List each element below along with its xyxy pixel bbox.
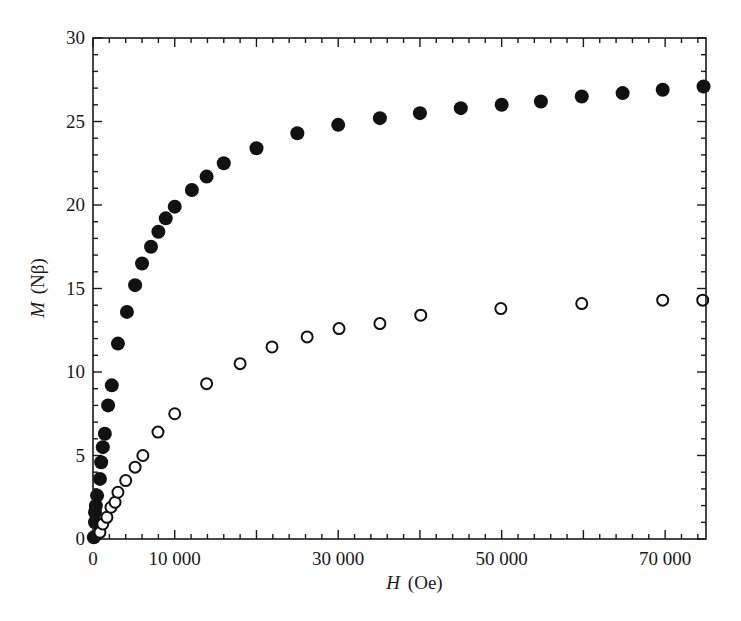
data-point bbox=[98, 427, 112, 441]
data-point bbox=[290, 126, 304, 140]
y-axis-variable: M bbox=[27, 301, 48, 319]
data-point bbox=[112, 487, 123, 498]
data-point bbox=[135, 256, 149, 270]
data-point bbox=[334, 323, 345, 334]
x-axis-variable: H bbox=[385, 572, 401, 593]
data-point bbox=[168, 200, 182, 214]
data-point bbox=[217, 156, 231, 170]
data-point bbox=[111, 337, 125, 351]
data-point bbox=[374, 318, 385, 329]
data-point bbox=[185, 183, 199, 197]
data-point bbox=[144, 240, 158, 254]
data-point bbox=[93, 472, 107, 486]
x-tick-label: 10 000 bbox=[149, 548, 201, 569]
data-point bbox=[413, 106, 427, 120]
data-point bbox=[266, 341, 277, 352]
data-point bbox=[576, 298, 587, 309]
x-axis-unit: (Oe) bbox=[408, 572, 443, 594]
data-point bbox=[101, 398, 115, 412]
data-point bbox=[105, 378, 119, 392]
y-tick-label: 10 bbox=[66, 361, 85, 382]
x-tick-label: 30 000 bbox=[312, 548, 364, 569]
data-point bbox=[656, 83, 670, 97]
data-point bbox=[235, 358, 246, 369]
data-point bbox=[415, 310, 426, 321]
data-point bbox=[128, 278, 142, 292]
data-point bbox=[152, 427, 163, 438]
data-point bbox=[495, 303, 506, 314]
y-axis-unit: (Nβ) bbox=[27, 258, 49, 294]
data-point bbox=[495, 98, 509, 112]
y-axis-label: M (Nβ) bbox=[27, 258, 49, 319]
data-point bbox=[331, 118, 345, 132]
data-point bbox=[454, 101, 468, 115]
data-point bbox=[120, 475, 131, 486]
y-tick-label: 5 bbox=[76, 445, 86, 466]
data-point bbox=[373, 111, 387, 125]
data-point bbox=[575, 89, 589, 103]
data-point bbox=[151, 225, 165, 239]
data-point bbox=[94, 455, 108, 469]
data-point bbox=[201, 378, 212, 389]
y-tick-label: 30 bbox=[66, 27, 85, 48]
x-axis-label: H (Oe) bbox=[385, 572, 442, 594]
magnetization-chart: 010 00030 00050 00070 000051015202530 H … bbox=[0, 0, 741, 621]
data-point bbox=[159, 211, 173, 225]
data-point bbox=[96, 440, 110, 454]
data-point bbox=[200, 170, 214, 184]
data-point bbox=[169, 408, 180, 419]
y-tick-label: 0 bbox=[76, 528, 86, 549]
data-point bbox=[616, 86, 630, 100]
x-tick-label: 70 000 bbox=[639, 548, 691, 569]
x-tick-label: 0 bbox=[88, 548, 98, 569]
y-tick-label: 20 bbox=[66, 194, 85, 215]
data-point bbox=[137, 450, 148, 461]
y-tick-label: 25 bbox=[66, 111, 85, 132]
data-point bbox=[90, 489, 104, 503]
data-point bbox=[697, 79, 711, 93]
y-tick-label: 15 bbox=[66, 278, 85, 299]
data-point bbox=[249, 141, 263, 155]
data-point bbox=[534, 94, 548, 108]
chart-background bbox=[0, 0, 741, 621]
x-tick-label: 50 000 bbox=[476, 548, 528, 569]
data-point bbox=[130, 462, 141, 473]
data-point bbox=[120, 305, 134, 319]
data-point bbox=[657, 295, 668, 306]
data-point bbox=[302, 331, 313, 342]
